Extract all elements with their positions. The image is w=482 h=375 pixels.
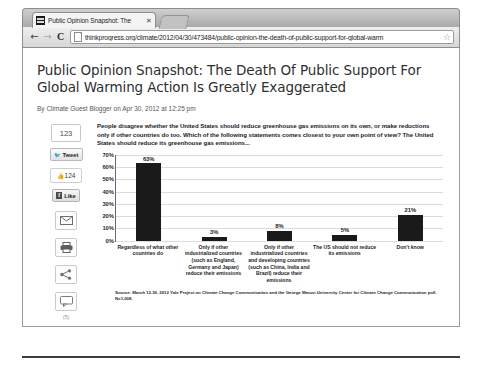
reload-icon[interactable]: C xyxy=(54,32,67,42)
bar-value-label: 21% xyxy=(405,208,417,214)
twitter-bird-icon: 🐦 xyxy=(54,152,61,158)
facebook-like-button[interactable]: f Like xyxy=(52,189,80,202)
like-count-value: 124 xyxy=(65,172,76,179)
bar xyxy=(332,235,357,241)
byline: By Climate Guest Blogger on Apr 30, 2012… xyxy=(37,105,443,112)
page-info-icon xyxy=(74,32,82,42)
bar-column: 63% xyxy=(116,155,181,241)
bar xyxy=(136,163,161,240)
x-axis-category-label: Regardless of what other countries do xyxy=(115,244,181,284)
bar-column: 21% xyxy=(378,155,443,241)
share-icon[interactable] xyxy=(55,265,77,284)
chart-source-note: Source: March 12-30, 2012 Yale Project o… xyxy=(115,290,443,302)
bookmark-star-icon[interactable]: ☆ xyxy=(443,33,451,42)
y-axis-tick-label: 50% xyxy=(102,176,114,182)
email-icon[interactable] xyxy=(55,211,77,230)
bar-value-label: 8% xyxy=(275,224,283,230)
browser-window: Public Opinion Snapshot: The ✕ ← → C thi… xyxy=(22,8,460,328)
print-icon[interactable] xyxy=(55,238,77,257)
bar xyxy=(398,215,423,241)
x-axis-category-label: Only if other industrialized countries a… xyxy=(246,244,312,284)
y-axis-tick-label: 40% xyxy=(102,189,114,195)
x-axis-category-label: Don't know xyxy=(377,244,443,284)
bar xyxy=(267,231,292,241)
share-count-box[interactable]: 123 xyxy=(51,124,81,142)
new-tab-button[interactable] xyxy=(159,15,190,29)
site-favicon xyxy=(36,16,45,25)
back-button[interactable]: ← xyxy=(28,32,41,42)
bar-value-label: 63% xyxy=(143,157,155,163)
x-axis-category-label: Only if other industrialized countries (… xyxy=(181,244,247,284)
address-bar[interactable]: thinkprogress.org/climate/2012/04/30/473… xyxy=(70,30,454,44)
comment-count: (5) xyxy=(63,314,70,320)
chart-bars: 63%3%8%5%21% xyxy=(116,155,443,241)
comment-icon[interactable] xyxy=(55,292,77,311)
poll-chart: People disagree whether the United State… xyxy=(95,122,443,302)
bar-column: 5% xyxy=(312,155,377,241)
tab-strip: Public Opinion Snapshot: The ✕ xyxy=(22,8,460,27)
article: Public Opinion Snapshot: The Death Of Pu… xyxy=(23,48,459,320)
bar-value-label: 5% xyxy=(341,228,349,234)
y-axis-tick-label: 0% xyxy=(106,238,114,244)
bar xyxy=(202,237,227,241)
bar-value-label: 3% xyxy=(210,230,218,236)
browser-tab[interactable]: Public Opinion Snapshot: The ✕ xyxy=(32,12,156,28)
y-axis-tick-label: 30% xyxy=(102,201,114,207)
y-axis-tick-label: 20% xyxy=(102,213,114,219)
page-title: Public Opinion Snapshot: The Death Of Pu… xyxy=(37,62,443,96)
tweet-button[interactable]: 🐦 Tweet xyxy=(50,148,83,161)
bar-column: 3% xyxy=(181,155,246,241)
page-footer-rule xyxy=(22,356,460,358)
facebook-like-label: Like xyxy=(64,193,76,199)
chart-plot-area: 70%60%50%40%30%20%10%0% 63%3%8%5%21% xyxy=(115,155,443,242)
y-axis-tick-label: 10% xyxy=(102,225,114,231)
facebook-icon: f xyxy=(56,192,62,199)
facebook-like-count[interactable]: 👍 124 xyxy=(50,168,82,183)
gridline: 0% xyxy=(116,241,443,242)
y-axis-tick-label: 70% xyxy=(102,152,114,158)
forward-button[interactable]: → xyxy=(41,32,54,42)
social-share-rail: 123 🐦 Tweet 👍 124 f Like xyxy=(37,122,95,320)
page-viewport: Public Opinion Snapshot: The Death Of Pu… xyxy=(22,48,460,327)
browser-toolbar: ← → C thinkprogress.org/climate/2012/04/… xyxy=(22,27,460,48)
x-axis-category-label: The US should not reduce its emissions xyxy=(312,244,378,284)
y-axis-tick-label: 60% xyxy=(102,164,114,170)
close-icon[interactable]: ✕ xyxy=(146,17,152,24)
chart-x-axis-labels: Regardless of what other countries doOnl… xyxy=(115,244,443,284)
url-text[interactable]: thinkprogress.org/climate/2012/04/30/473… xyxy=(85,34,442,41)
thumbs-up-icon: 👍 xyxy=(57,172,64,179)
bar-column: 8% xyxy=(247,155,312,241)
article-body: 123 🐦 Tweet 👍 124 f Like xyxy=(37,122,443,320)
tab-title: Public Opinion Snapshot: The xyxy=(48,17,144,24)
tweet-button-label: Tweet xyxy=(63,152,79,158)
chart-title: People disagree whether the United State… xyxy=(97,122,443,148)
